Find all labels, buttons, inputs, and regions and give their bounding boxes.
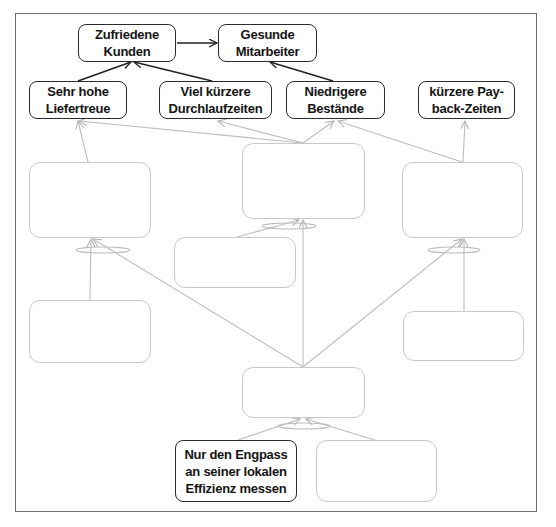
arrow-engpass-to-center-bottom	[238, 419, 300, 440]
arrow-bestaende-to-mitarbeiter	[270, 62, 333, 81]
node-label: Nur den Engpass an seiner lokalen Effizi…	[184, 446, 287, 497]
node-label: Niedrigere Bestände	[305, 83, 367, 117]
node-viel-kuerzere-durchlaufzeiten[interactable]: Viel kürzere Durchlaufzeiten	[159, 81, 272, 119]
node-niedrigere-bestaende[interactable]: Niedrigere Bestände	[286, 81, 385, 119]
arrow-right-middle-to-payback	[463, 121, 465, 162]
node-empty-center-bottom[interactable]	[242, 367, 365, 418]
node-nur-den-engpass[interactable]: Nur den Engpass an seiner lokalen Effizi…	[175, 440, 297, 502]
node-empty-left-middle[interactable]	[29, 162, 151, 238]
node-kuerzere-payback-zeiten[interactable]: kürzere Pay- back-Zeiten	[418, 81, 515, 119]
arrow-bottom-right-to-center-bottom	[306, 419, 375, 440]
node-label: Sehr hohe Liefertreue	[46, 83, 110, 117]
and-connector-center-icon	[262, 223, 316, 229]
and-connector-right-icon	[428, 247, 480, 253]
node-label: Viel kürzere Durchlaufzeiten	[169, 83, 263, 117]
arrow-left-middle-to-liefertreue	[78, 121, 88, 162]
node-empty-right-middle[interactable]	[402, 162, 523, 238]
node-label: Gesunde Mitarbeiter	[236, 26, 300, 60]
and-connector-bottom-icon	[278, 423, 330, 429]
node-gesunde-mitarbeiter[interactable]: Gesunde Mitarbeiter	[218, 24, 317, 62]
arrow-center-top-to-liefertreue	[79, 121, 303, 143]
node-empty-center-top[interactable]	[242, 143, 365, 219]
node-label: Zufriedene Kunden	[95, 26, 159, 60]
node-label: kürzere Pay- back-Zeiten	[429, 83, 503, 117]
and-connector-left-icon	[76, 247, 130, 253]
node-empty-right-lower[interactable]	[403, 311, 524, 361]
node-sehr-hohe-liefertreue[interactable]: Sehr hohe Liefertreue	[29, 81, 127, 119]
arrow-durchlaufzeiten-to-kunden	[134, 62, 212, 81]
arrow-center-top-to-bestaende	[303, 121, 334, 143]
arrow-liefertreue-to-kunden	[78, 62, 131, 81]
node-empty-bottom-right[interactable]	[316, 440, 437, 502]
arrow-center-top-to-durchlaufzeiten	[218, 121, 303, 143]
node-empty-small-center-left[interactable]	[174, 237, 296, 288]
node-zufriedene-kunden[interactable]: Zufriedene Kunden	[78, 24, 176, 62]
node-empty-left-lower[interactable]	[29, 300, 151, 363]
arrow-left-lower-to-left-middle	[90, 239, 91, 300]
